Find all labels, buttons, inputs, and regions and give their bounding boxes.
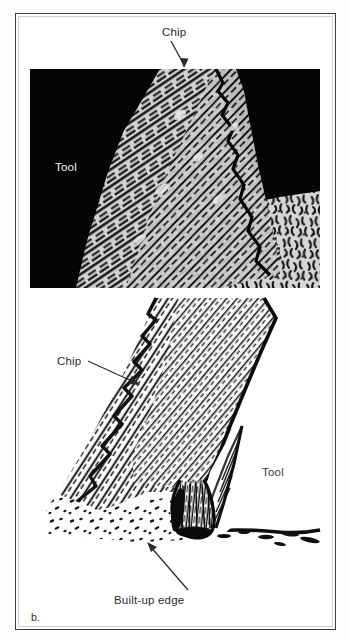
panel-b-label-tool: Tool bbox=[262, 466, 284, 478]
panel-b-caption: b. bbox=[31, 611, 40, 623]
panel-a-label-tool: Tool bbox=[55, 161, 77, 173]
panel-b-built-up-edge-arrow-icon bbox=[140, 538, 196, 596]
panel-b-label-built-up-edge: Built-up edge bbox=[114, 594, 184, 606]
panel-b-chip-arrow-icon bbox=[84, 356, 150, 390]
panel-a-chip-arrow-icon bbox=[150, 38, 210, 74]
panel-b-label-chip: Chip bbox=[57, 355, 81, 367]
panel-a-micrograph bbox=[30, 69, 320, 288]
figure-root: Chip Tool a. bbox=[0, 0, 350, 642]
panel-a-image bbox=[30, 69, 320, 288]
panel-a-label-chip: Chip bbox=[162, 26, 186, 38]
